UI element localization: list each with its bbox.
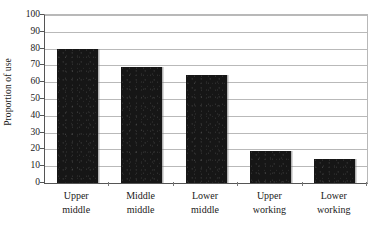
x-axis-tick-label-line1: Upper bbox=[237, 189, 301, 203]
x-axis-tick-label-line1: Upper bbox=[44, 189, 108, 203]
x-axis-tick-label-line2: working bbox=[302, 203, 366, 217]
x-axis-tick-mark bbox=[108, 182, 109, 186]
x-axis-tick-label: Upperworking bbox=[237, 189, 301, 216]
x-axis-tick-label-line1: Lower bbox=[302, 189, 366, 203]
x-axis-tick-label-line1: Middle bbox=[108, 189, 172, 203]
x-axis-tick-mark bbox=[173, 182, 174, 186]
bars-layer bbox=[45, 15, 367, 183]
x-axis-tick-label-line1: Lower bbox=[173, 189, 237, 203]
x-axis-tick-label: Lowerworking bbox=[302, 189, 366, 216]
bar-chart-figure: Proportion of use 1009080706050403020100… bbox=[0, 0, 380, 232]
x-axis-tick-label-line2: working bbox=[237, 203, 301, 217]
x-axis-tick-labels: UppermiddleMiddlemiddleLowermiddleUpperw… bbox=[44, 189, 366, 231]
y-axis-title: Proportion of use bbox=[0, 0, 16, 184]
bar bbox=[314, 159, 355, 183]
y-axis-title-text: Proportion of use bbox=[3, 58, 13, 126]
x-axis-tick-mark bbox=[366, 182, 367, 186]
x-axis-tick-label-line2: middle bbox=[108, 203, 172, 217]
bar bbox=[250, 151, 291, 183]
x-axis-tick-label: Middlemiddle bbox=[108, 189, 172, 216]
x-axis-tick-marks bbox=[44, 182, 366, 187]
bar bbox=[121, 67, 162, 183]
bar bbox=[57, 49, 98, 183]
x-axis-tick-label: Lowermiddle bbox=[173, 189, 237, 216]
x-axis-tick-label-line2: middle bbox=[173, 203, 237, 217]
plot-area bbox=[44, 14, 368, 184]
bar bbox=[186, 75, 227, 183]
x-axis-tick-mark bbox=[237, 182, 238, 186]
x-axis-tick-label-line2: middle bbox=[44, 203, 108, 217]
x-axis-tick-mark bbox=[302, 182, 303, 186]
x-axis-tick-label: Uppermiddle bbox=[44, 189, 108, 216]
